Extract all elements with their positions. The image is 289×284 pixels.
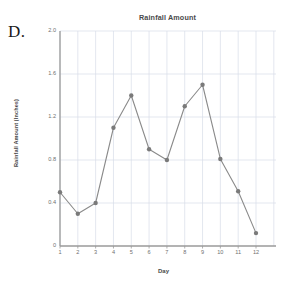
data-point: [218, 157, 222, 161]
data-point: [254, 231, 258, 235]
axis-lines: [60, 31, 276, 249]
data-point-markers: [58, 83, 258, 236]
data-point: [111, 126, 115, 130]
plot-area: [0, 0, 289, 284]
data-point: [200, 83, 204, 87]
gridlines: [60, 31, 276, 246]
chart-figure: D. Rainfall Amount Rainfall Amount (Inch…: [0, 0, 289, 284]
data-point: [236, 189, 240, 193]
data-series-line: [60, 85, 256, 233]
data-point: [129, 93, 133, 97]
data-point: [147, 147, 151, 151]
data-point: [76, 212, 80, 216]
data-point: [183, 104, 187, 108]
data-point: [165, 158, 169, 162]
data-point: [93, 201, 97, 205]
data-point: [58, 190, 62, 194]
